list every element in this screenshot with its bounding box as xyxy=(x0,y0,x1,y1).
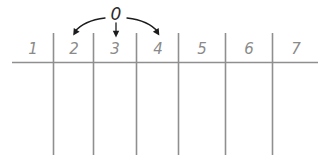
cell-label-1: 1 xyxy=(28,40,38,58)
diagram-canvas: 1 2 3 4 5 6 7 0 xyxy=(0,0,332,159)
cell-label-2: 2 xyxy=(69,40,79,58)
arrow-to-4-curve xyxy=(127,18,158,32)
arrow-to-3-head xyxy=(113,31,119,38)
cell-label-3: 3 xyxy=(110,40,120,58)
cell-label-7: 7 xyxy=(291,40,301,58)
cell-label-5: 5 xyxy=(197,40,207,58)
cell-label-4: 4 xyxy=(153,40,163,58)
arrow-to-2-curve xyxy=(75,18,106,32)
source-value-label: 0 xyxy=(111,4,122,24)
cell-label-6: 6 xyxy=(244,40,254,58)
number-line-diagram: 1 2 3 4 5 6 7 0 xyxy=(0,0,332,159)
